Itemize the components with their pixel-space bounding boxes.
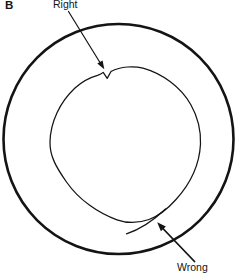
figure-panel: B Right Wrong xyxy=(0,0,235,276)
inner-tear-curve xyxy=(50,67,201,222)
outer-circle xyxy=(4,24,234,254)
right-arrowhead-icon xyxy=(97,60,104,69)
right-arrow-line xyxy=(69,12,102,66)
panel-label: B xyxy=(5,0,13,11)
diagram-canvas xyxy=(0,0,235,276)
wrong-label: Wrong xyxy=(177,262,208,273)
overlap-tail-line xyxy=(127,209,166,234)
right-label: Right xyxy=(53,0,78,10)
